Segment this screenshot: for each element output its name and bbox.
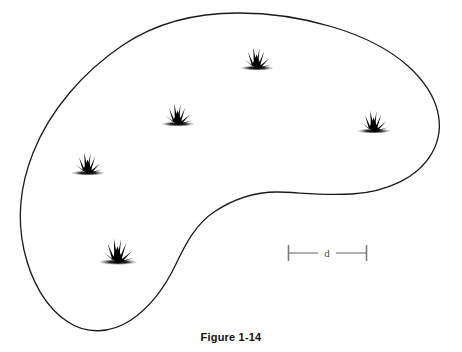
figure-drawing-canvas: d — [0, 0, 462, 352]
figure-container: d Figure 1-14 — [0, 0, 462, 352]
distance-scale-bar: d — [288, 245, 367, 261]
figure-caption: Figure 1-14 — [0, 330, 462, 344]
scalebar-label: d — [324, 247, 330, 259]
